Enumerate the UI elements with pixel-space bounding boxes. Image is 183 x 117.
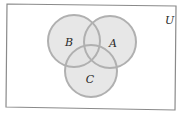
set-label-c: C <box>86 73 95 86</box>
universe-label: U <box>165 14 175 27</box>
set-label-b: B <box>64 36 73 49</box>
venn-diagram: BAC U <box>0 0 183 117</box>
set-label-a: A <box>108 37 117 50</box>
